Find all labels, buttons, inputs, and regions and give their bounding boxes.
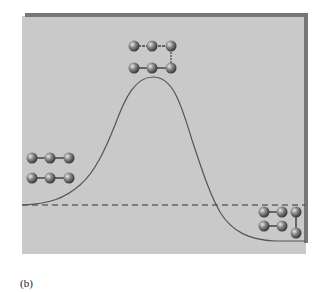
diagram-panel [22,13,308,254]
energy-diagram [0,0,326,292]
figure-caption: (b) [20,277,33,289]
